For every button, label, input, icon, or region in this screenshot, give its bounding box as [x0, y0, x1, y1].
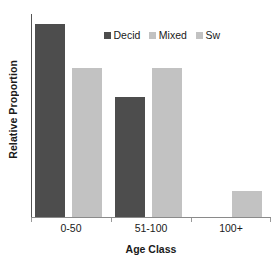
- bar-mixed-100+: [232, 191, 262, 217]
- bar-decid-0-50: [35, 24, 65, 217]
- y-axis-title: Relative Proportion: [7, 60, 19, 159]
- x-axis-tick-labels: 0-5051-100100+: [31, 222, 271, 238]
- y-axis-title-wrapper: Relative Proportion: [0, 0, 26, 218]
- legend-label: Mixed: [159, 30, 187, 41]
- legend-swatch-icon: [196, 32, 203, 39]
- legend-label: Decid: [114, 30, 141, 41]
- bar-mixed-51-100: [152, 68, 182, 217]
- chart-legend: DecidMixedSw: [104, 30, 220, 41]
- legend-label: Sw: [205, 30, 220, 41]
- x-tick-label-100+: 100+: [191, 222, 271, 234]
- plot-area: [31, 14, 271, 218]
- legend-item-mixed: Mixed: [149, 30, 187, 41]
- legend-item-decid: Decid: [104, 30, 140, 41]
- bar-mixed-0-50: [72, 68, 102, 217]
- legend-swatch-icon: [149, 32, 156, 39]
- bar-chart-figure: Relative Proportion DecidMixedSw 0-5051-…: [0, 0, 277, 263]
- x-tick-label-51-100: 51-100: [111, 222, 191, 234]
- x-axis-title: Age Class: [31, 243, 271, 255]
- x-tick-label-0-50: 0-50: [31, 222, 111, 234]
- legend-item-sw: Sw: [196, 30, 220, 41]
- bar-group-container: [31, 14, 271, 218]
- bar-decid-51-100: [115, 97, 145, 217]
- legend-swatch-icon: [104, 32, 111, 39]
